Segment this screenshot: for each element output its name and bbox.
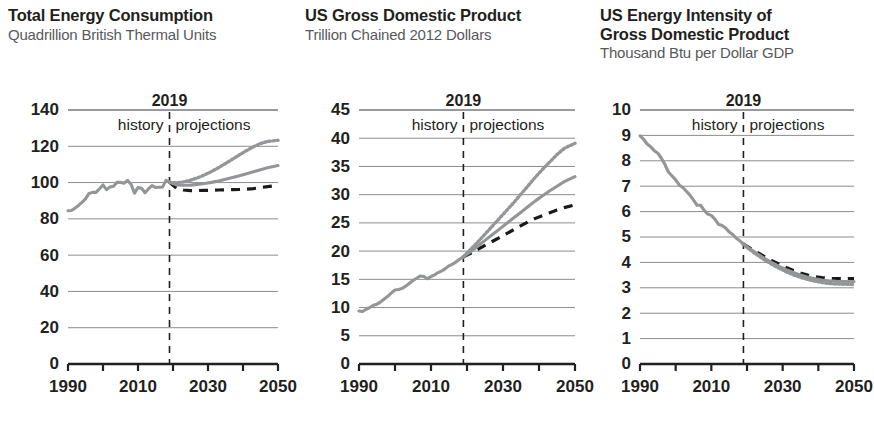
- divider-year-label: 2019: [726, 92, 762, 109]
- ytick-label-20: 20: [40, 318, 59, 337]
- ytick-label-1: 1: [622, 329, 631, 348]
- plot-area: 01234567891019902010203020502019historyp…: [592, 96, 874, 396]
- eia-outlook-chart-figure: Total Energy Consumption Quadrillion Bri…: [0, 0, 874, 435]
- ytick-label-3: 3: [622, 278, 631, 297]
- ytick-label-10: 10: [612, 100, 631, 119]
- panel-subtitle: Trillion Chained 2012 Dollars: [305, 26, 585, 43]
- series-line-history: [359, 257, 463, 312]
- ytick-label-25: 25: [331, 213, 350, 232]
- xtick-label-1990: 1990: [340, 377, 378, 396]
- ytick-label-15: 15: [331, 270, 350, 289]
- ytick-label-9: 9: [622, 126, 631, 145]
- ytick-label-40: 40: [40, 282, 59, 301]
- ytick-label-5: 5: [341, 326, 350, 345]
- xtick-label-2010: 2010: [412, 377, 450, 396]
- xtick-label-2050: 2050: [556, 377, 594, 396]
- xtick-label-2010: 2010: [692, 377, 730, 396]
- xtick-label-2030: 2030: [189, 377, 227, 396]
- chart-svg-2: 01234567891019902010203020502019historyp…: [592, 96, 874, 396]
- panel-header: Total Energy Consumption Quadrillion Bri…: [8, 6, 288, 43]
- chart-svg-1: 05101520253035404519902010203020502019hi…: [297, 96, 597, 396]
- ytick-label-80: 80: [40, 209, 59, 228]
- ytick-label-140: 140: [31, 100, 59, 119]
- xtick-label-2050: 2050: [835, 377, 873, 396]
- chart-panel-us-energy-intensity: US Energy Intensity of Gross Domestic Pr…: [592, 0, 874, 435]
- ytick-label-6: 6: [622, 202, 631, 221]
- ytick-label-40: 40: [331, 129, 350, 148]
- ytick-label-45: 45: [331, 100, 350, 119]
- xtick-label-2010: 2010: [119, 377, 157, 396]
- ytick-label-0: 0: [50, 354, 59, 373]
- ytick-label-35: 35: [331, 157, 350, 176]
- projections-label: projections: [469, 116, 544, 133]
- ytick-label-60: 60: [40, 246, 59, 265]
- panel-title: Total Energy Consumption: [8, 6, 288, 25]
- xtick-label-2030: 2030: [764, 377, 802, 396]
- chart-svg-0: 02040608010012014019902010203020502019hi…: [0, 96, 300, 396]
- panel-header: US Energy Intensity of Gross Domestic Pr…: [600, 6, 874, 62]
- projections-label: projections: [176, 116, 251, 133]
- ytick-label-8: 8: [622, 151, 631, 170]
- ytick-label-5: 5: [622, 227, 631, 246]
- plot-area: 05101520253035404519902010203020502019hi…: [297, 96, 597, 396]
- series-line-history: [640, 136, 743, 244]
- history-label: history: [412, 116, 458, 133]
- series-line-history: [68, 180, 170, 210]
- divider-year-label: 2019: [446, 92, 482, 109]
- panel-title: US Gross Domestic Product: [305, 6, 585, 25]
- series-line-reference-case: [463, 177, 575, 257]
- xtick-label-1990: 1990: [621, 377, 659, 396]
- history-label: history: [692, 116, 738, 133]
- ytick-label-0: 0: [622, 354, 631, 373]
- ytick-label-7: 7: [622, 177, 631, 196]
- plot-area: 02040608010012014019902010203020502019hi…: [0, 96, 300, 396]
- ytick-label-30: 30: [331, 185, 350, 204]
- panel-subtitle: Thousand Btu per Dollar GDP: [600, 44, 874, 61]
- projections-label: projections: [749, 116, 824, 133]
- divider-year-label: 2019: [152, 92, 188, 109]
- ytick-label-2: 2: [622, 304, 631, 323]
- panel-subtitle: Quadrillion British Thermal Units: [8, 26, 288, 43]
- series-line-high-economic-growth: [463, 143, 575, 256]
- chart-panel-us-gross-domestic-product: US Gross Domestic Product Trillion Chain…: [297, 0, 597, 435]
- history-label: history: [118, 116, 164, 133]
- panel-title: US Energy Intensity of Gross Domestic Pr…: [600, 6, 874, 43]
- panel-header: US Gross Domestic Product Trillion Chain…: [305, 6, 585, 43]
- xtick-label-2050: 2050: [259, 377, 297, 396]
- ytick-label-20: 20: [331, 242, 350, 261]
- ytick-label-100: 100: [31, 173, 59, 192]
- chart-panel-total-energy-consumption: Total Energy Consumption Quadrillion Bri…: [0, 0, 300, 435]
- ytick-label-4: 4: [622, 253, 632, 272]
- xtick-label-1990: 1990: [49, 377, 87, 396]
- ytick-label-10: 10: [331, 298, 350, 317]
- xtick-label-2030: 2030: [484, 377, 522, 396]
- ytick-label-120: 120: [31, 137, 59, 156]
- ytick-label-0: 0: [341, 354, 350, 373]
